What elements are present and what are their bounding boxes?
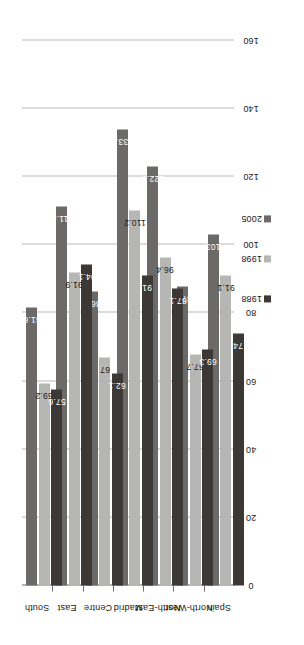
bar-value-label: 91: [142, 282, 152, 292]
legend-swatch-icon: [264, 215, 271, 222]
legend-label: 1998: [241, 254, 262, 264]
bar-value-label: 62.1: [108, 380, 125, 390]
legend-entry[interactable]: 1988: [241, 292, 271, 310]
bar[interactable]: [160, 257, 171, 585]
rotated-figure-container: 020406080100120140160 SpainNorth-WestNor…: [0, 0, 304, 645]
bar-value-label: 57.6: [48, 396, 65, 406]
gridline: [22, 243, 234, 244]
gridline: [22, 39, 234, 40]
category-label: Madrid: [114, 602, 143, 612]
category-label: East: [58, 602, 77, 612]
category-tick: [173, 585, 174, 591]
bar-value-label: 94.1: [78, 271, 95, 281]
bar[interactable]: [112, 373, 123, 585]
legend-label: 2005: [241, 214, 262, 224]
legend-label: 1988: [241, 294, 262, 304]
legend-entry[interactable]: 1998: [241, 252, 271, 270]
bar-value-label: 96.4: [156, 264, 173, 274]
value-tick-label: 40: [246, 444, 256, 454]
value-tick-label: 120: [243, 171, 259, 181]
bar[interactable]: [26, 307, 37, 585]
bar-value-label: 87.1: [169, 295, 186, 305]
bar-value-label: 69.3: [199, 356, 216, 366]
value-tick-label: 0: [248, 580, 253, 590]
category-label: Centre: [84, 602, 112, 612]
bar-value-label: 111.4: [51, 213, 72, 223]
bar-value-label: 81.6: [23, 314, 40, 324]
category-tick: [83, 585, 84, 591]
gridline: [22, 312, 234, 313]
category-tick: [52, 585, 53, 591]
category-tick: [204, 585, 205, 591]
bar[interactable]: [51, 389, 62, 585]
bar[interactable]: [99, 357, 110, 585]
bar-value-label: 74: [233, 340, 243, 350]
bar[interactable]: [81, 264, 92, 585]
gridline: [22, 107, 234, 108]
legend-swatch-icon: [264, 295, 271, 302]
bar[interactable]: [220, 275, 231, 585]
gridline: [22, 175, 234, 176]
category-tick: [143, 585, 144, 591]
category-label: South: [25, 602, 50, 612]
bar[interactable]: [202, 349, 213, 585]
bar[interactable]: [142, 275, 153, 585]
category-label: North-East: [136, 602, 181, 612]
bar[interactable]: [129, 210, 140, 585]
bar-value-label: 133.9: [111, 136, 133, 146]
bar-value-label: 110.2: [124, 217, 146, 227]
value-tick-label: 160: [243, 35, 259, 45]
value-tick-label: 60: [246, 376, 256, 386]
bar-value-label: 91.1: [217, 282, 234, 292]
legend-swatch-icon: [264, 255, 271, 262]
bar-value-label: 67: [100, 364, 110, 374]
value-tick-label: 100: [243, 239, 259, 249]
value-tick-label: 20: [246, 512, 256, 522]
bar-value-label: 103: [206, 241, 221, 251]
value-tick-label: 140: [243, 103, 259, 113]
bar[interactable]: [233, 333, 244, 585]
bar[interactable]: [69, 272, 80, 585]
bar[interactable]: [39, 383, 50, 585]
bar-value-label: 122.9: [142, 173, 164, 183]
legend-entry[interactable]: 2005: [241, 212, 271, 230]
bar[interactable]: [190, 354, 201, 585]
category-tick: [113, 585, 114, 591]
bar-chart-figure: 020406080100120140160 SpainNorth-WestNor…: [0, 0, 304, 645]
bar[interactable]: [172, 288, 183, 585]
